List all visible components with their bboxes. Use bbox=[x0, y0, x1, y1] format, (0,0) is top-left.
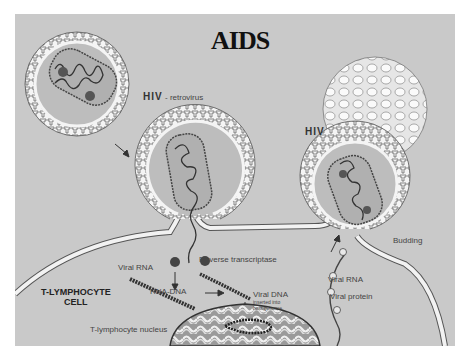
label-cell-name: T-LYMPHOCYTE CELL bbox=[41, 287, 111, 307]
aids-diagram: AIDS HIV - retrovirus HIV Budding Revers… bbox=[15, 14, 455, 346]
label-hiv-budding: HIV bbox=[305, 126, 325, 137]
label-nucleus: T-lymphocyte nucleus bbox=[90, 325, 167, 334]
label-viral-dna-note-2: host genome bbox=[253, 305, 282, 311]
enzyme-blob bbox=[170, 257, 180, 267]
label-cell-name-line1: T-LYMPHOCYTE bbox=[41, 287, 111, 297]
label-reverse-transcriptase: Reverse transcriptase bbox=[199, 255, 277, 264]
hiv-virion-fusing bbox=[135, 104, 255, 263]
label-viral-rna: Viral RNA bbox=[118, 263, 153, 272]
viral-dna-strand bbox=[200, 274, 250, 299]
label-viral-dna: Viral DNA bbox=[253, 290, 288, 299]
diagram-title: AIDS bbox=[211, 26, 269, 56]
label-viral-protein: Viral protein bbox=[330, 292, 373, 301]
hiv-virion-budding bbox=[300, 57, 427, 229]
label-retrovirus: - retrovirus bbox=[165, 93, 203, 102]
label-rna-dna: RNA-DNA bbox=[150, 287, 186, 296]
label-cell-name-line2: CELL bbox=[41, 297, 111, 307]
label-budding: Budding bbox=[393, 236, 422, 245]
label-hiv-retrovirus: HIV bbox=[143, 91, 163, 102]
label-viral-rna-right: Viral RNA bbox=[328, 275, 363, 284]
hiv-virion-free bbox=[25, 32, 129, 136]
t-lymphocyte-nucleus bbox=[170, 304, 320, 346]
